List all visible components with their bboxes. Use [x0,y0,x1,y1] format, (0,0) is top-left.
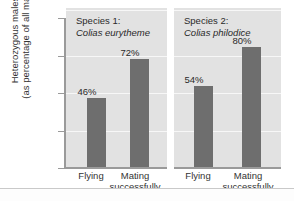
panel-1-species-name: Colias eurytheme [76,27,150,39]
y-axis-ticks: 100 75 50 25 0 [0,0,64,201]
panel-2-species-label: Species 2: [184,15,251,27]
bar-value-species1-mating: 72% [115,48,145,58]
x-tick-label-panel2-mating-line1: Mating [215,170,281,181]
y-tick-mark-75 [58,56,64,57]
x-axis-line-panel-1 [64,167,167,169]
gridline-25 [174,131,281,132]
bar-species1-mating [130,59,149,167]
panel-1-title: Species 1: Colias eurytheme [76,15,150,38]
panel-1-species-label: Species 1: [76,15,150,27]
gridline-75 [174,56,281,57]
y-tick-mark-100 [58,18,64,19]
bar-value-species2-flying: 54% [179,75,209,85]
bar-species1-flying [87,98,106,167]
y-tick-mark-50 [58,93,64,94]
panel-species-2: Species 2: Colias philodice [174,8,281,167]
x-tick-label-panel1-mating-line1: Mating [104,170,166,181]
gridline-100 [174,10,281,11]
bar-species2-mating [242,47,261,167]
bar-value-species2-mating: 80% [227,36,257,46]
gridline-100 [66,10,167,11]
y-tick-mark-25 [58,131,64,132]
bottom-band [0,189,294,201]
bar-species2-flying [194,86,213,167]
x-axis-line-panel-2 [174,167,281,169]
gridline-25 [66,131,167,132]
bar-chart-figure: Heterozygous males (as percentage of all… [0,0,294,201]
bar-value-species1-flying: 46% [72,87,102,97]
gridline-50 [174,93,281,94]
